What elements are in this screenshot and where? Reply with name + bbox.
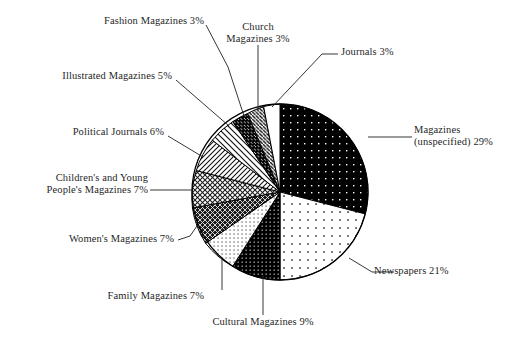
pie-label-church-magazines: Church Magazines 3% (212, 21, 304, 46)
pie-label-political-journals: Political Journals 6% (24, 126, 164, 138)
pie-label-magazines-unspecified: Magazines (unspecified) 29% (414, 124, 510, 149)
pie-label-childrens-magazines-line1: Children's and Young (56, 172, 148, 183)
pie-label-childrens-magazines: Children's and Young People's Magazines … (14, 172, 148, 197)
pie-label-church-magazines-line1: Church (242, 21, 274, 32)
leader-line-womens-magazines (178, 226, 197, 240)
pie-label-journals: Journals 3% (341, 46, 394, 58)
leader-line-political-journals (168, 136, 203, 157)
pie-label-illustrated-magazines: Illustrated Magazines 5% (22, 70, 172, 82)
leader-line-illustrated-magazines (176, 80, 229, 126)
pie-label-newspapers: Newspapers 21% (374, 265, 449, 277)
pie-label-fashion-magazines: Fashion Magazines 3% (56, 15, 204, 27)
pie-label-cultural-magazines: Cultural Magazines 9% (188, 316, 338, 328)
pie-label-childrens-magazines-line2: People's Magazines 7% (47, 184, 148, 195)
leader-line-journals (272, 54, 338, 107)
pie-label-magazines-unspecified-line1: Magazines (414, 124, 460, 135)
pie-label-womens-magazines: Women's Magazines 7% (26, 233, 174, 245)
pie-slices (192, 104, 368, 280)
pie-chart-figure: Magazines (unspecified) 29% Newspapers 2… (0, 0, 512, 348)
pie-label-church-magazines-line2: Magazines 3% (226, 33, 289, 44)
pie-label-magazines-unspecified-line2: (unspecified) 29% (414, 136, 493, 147)
pie-label-family-magazines: Family Magazines 7% (68, 290, 204, 302)
